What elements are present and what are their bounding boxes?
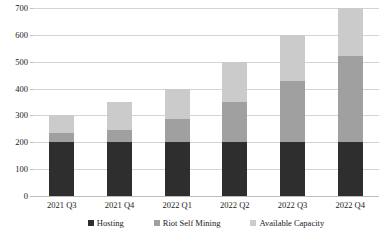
y-tick-label: 600 (15, 31, 28, 40)
bar-group (148, 8, 206, 196)
bar-group (91, 8, 149, 196)
x-tick-label: 2021 Q4 (91, 198, 149, 212)
bar-segment[interactable] (338, 8, 363, 56)
bar-stack[interactable] (280, 35, 305, 196)
legend-item[interactable]: Available Capacity (250, 219, 324, 228)
plot-area (33, 8, 379, 196)
bar-segment[interactable] (107, 102, 132, 130)
bar-segment[interactable] (107, 130, 132, 142)
y-tick-label: 200 (15, 138, 28, 147)
bar-group (264, 8, 322, 196)
bar-segment[interactable] (222, 62, 247, 102)
x-tick-label: 2022 Q4 (321, 198, 379, 212)
y-tick-label: 300 (15, 111, 28, 120)
bar-segment[interactable] (49, 142, 74, 196)
bar-stack[interactable] (107, 102, 132, 196)
y-tick-label: 400 (15, 84, 28, 93)
x-tick-label: 2022 Q2 (206, 198, 264, 212)
bar-segment[interactable] (165, 119, 190, 142)
legend-label: Available Capacity (259, 219, 324, 228)
y-tick-label: 500 (15, 57, 28, 66)
bar-segment[interactable] (222, 102, 247, 142)
x-tick-label: 2022 Q1 (148, 198, 206, 212)
bar-stack[interactable] (222, 62, 247, 196)
bar-stack[interactable] (49, 115, 74, 196)
bar-segment[interactable] (338, 56, 363, 142)
bar-stack[interactable] (165, 89, 190, 196)
bar-segment[interactable] (165, 89, 190, 120)
chart-legend: HostingRiot Self MiningAvailable Capacit… (33, 216, 379, 230)
y-tick-label: 100 (15, 165, 28, 174)
bar-segment[interactable] (49, 133, 74, 142)
legend-swatch-icon (250, 220, 256, 226)
y-axis: 0100200300400500600700 (0, 0, 33, 238)
bar-stack[interactable] (338, 8, 363, 196)
y-tick-label: 0 (24, 192, 28, 201)
legend-swatch-icon (154, 220, 160, 226)
bar-segment[interactable] (107, 142, 132, 196)
bar-segment[interactable] (222, 142, 247, 196)
bar-segment[interactable] (338, 142, 363, 196)
legend-swatch-icon (88, 220, 94, 226)
bars-layer (33, 8, 379, 196)
y-tick-label: 700 (15, 4, 28, 13)
bar-group (206, 8, 264, 196)
bar-segment[interactable] (280, 142, 305, 196)
x-axis: 2021 Q32021 Q42022 Q12022 Q22022 Q32022 … (33, 198, 379, 212)
legend-item[interactable]: Hosting (88, 219, 124, 228)
bar-group (321, 8, 379, 196)
bar-segment[interactable] (280, 35, 305, 81)
bar-segment[interactable] (280, 81, 305, 143)
x-tick-label: 2021 Q3 (33, 198, 91, 212)
bar-group (33, 8, 91, 196)
legend-label: Riot Self Mining (163, 219, 221, 228)
stacked-bar-chart: 0100200300400500600700 2021 Q32021 Q4202… (0, 0, 384, 238)
axis-baseline (33, 196, 379, 197)
bar-segment[interactable] (49, 115, 74, 133)
legend-item[interactable]: Riot Self Mining (154, 219, 221, 228)
legend-label: Hosting (97, 219, 124, 228)
bar-segment[interactable] (165, 142, 190, 196)
x-tick-label: 2022 Q3 (264, 198, 322, 212)
